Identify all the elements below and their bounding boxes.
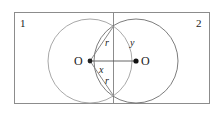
- geometry-figure: 1 2 O O r r x y: [0, 0, 223, 120]
- right-center-label: O: [141, 55, 150, 67]
- right-center-dot: [133, 58, 138, 63]
- figure-canvas: [0, 0, 223, 120]
- radius-label-lower: r: [105, 76, 109, 86]
- radius-segment-upper: [90, 27, 113, 61]
- segment-x-label: x: [99, 65, 103, 75]
- left-center-dot: [88, 59, 93, 64]
- left-center-label: O: [74, 55, 83, 67]
- segment-y-label: y: [130, 38, 134, 48]
- region-label-1: 1: [20, 18, 26, 29]
- region-label-2: 2: [196, 18, 202, 29]
- radius-label-upper: r: [105, 38, 109, 48]
